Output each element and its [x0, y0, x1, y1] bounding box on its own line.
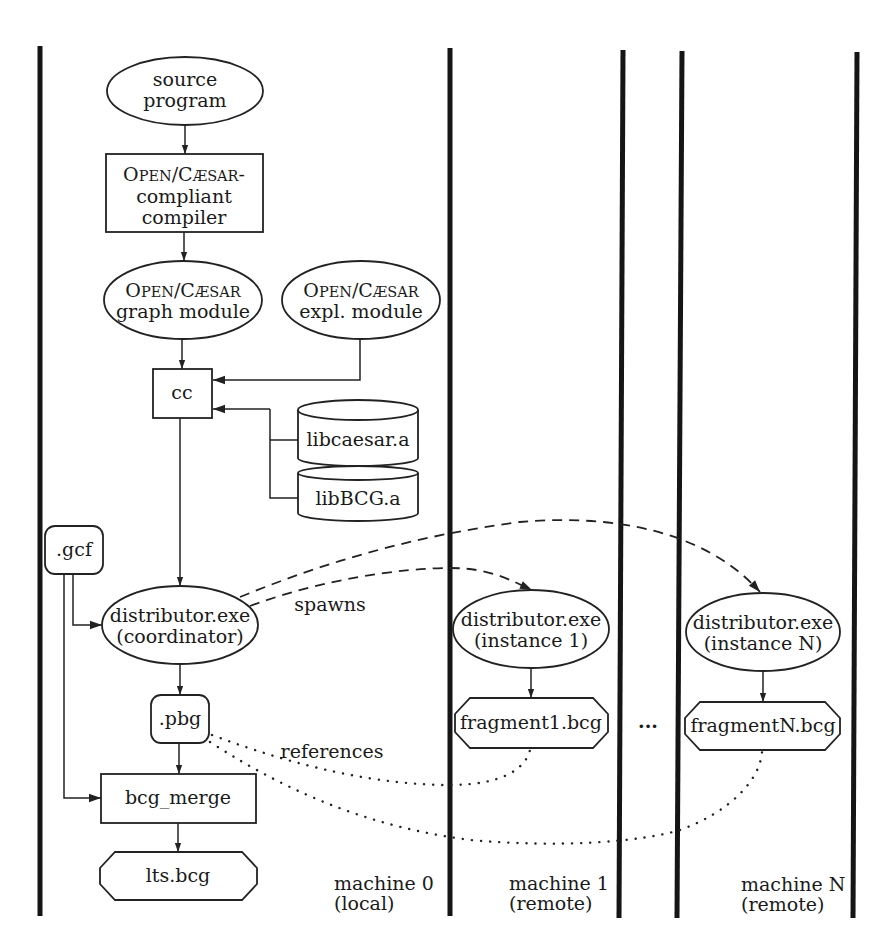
node-pbg: .pbg — [151, 695, 209, 743]
instanceN-line2: (instance N) — [704, 632, 823, 654]
compiler-line2: compliant — [136, 185, 232, 207]
machineN-right-boundary — [853, 52, 857, 918]
node-source-program: source program — [107, 57, 263, 125]
node-gcf: .gcf — [45, 526, 103, 574]
machineN-name: machine N — [741, 873, 845, 895]
node-instanceN: distributor.exe (instance N) — [686, 593, 840, 671]
node-fragmentN: fragmentN.bcg — [685, 702, 840, 750]
source-program-line1: source — [153, 68, 217, 90]
gcf-label: .gcf — [56, 538, 94, 560]
node-graph-module: OPEN/CÆSAR graph module — [104, 261, 262, 339]
node-bcg-merge: bcg_merge — [101, 774, 256, 823]
coordinator-line2: (coordinator) — [116, 625, 243, 647]
fragmentN-label: fragmentN.bcg — [690, 714, 835, 736]
node-expl-module: OPEN/CÆSAR expl. module — [282, 261, 440, 339]
node-fragment1: fragment1.bcg — [455, 698, 608, 748]
machine1-name: machine 1 — [509, 872, 609, 894]
machine0-name: machine 0 — [334, 872, 434, 894]
libbcg-label: libBCG.a — [315, 487, 400, 509]
pbg-label: .pbg — [159, 707, 202, 729]
machineN-left-boundary — [677, 51, 682, 918]
bcg-merge-label: bcg_merge — [125, 786, 231, 809]
cc-label: cc — [171, 381, 192, 403]
edge-expl-module-to-cc — [213, 339, 360, 380]
node-compiler: OPEN/CÆSAR- compliant compiler — [106, 154, 263, 232]
coordinator-line1: distributor.exe — [110, 604, 251, 626]
fragment1-label: fragment1.bcg — [460, 711, 602, 733]
compiler-line3: compiler — [142, 206, 228, 228]
lts-label: lts.bcg — [146, 864, 210, 886]
libcaesar-label: libcaesar.a — [307, 428, 410, 450]
machine1-right-boundary — [619, 50, 623, 918]
ellipsis-label: ... — [638, 710, 658, 732]
node-libcaesar: libcaesar.a — [298, 400, 418, 466]
node-lts: lts.bcg — [100, 852, 257, 900]
machine0-kind: (local) — [334, 892, 394, 914]
instanceN-line1: distributor.exe — [693, 611, 834, 633]
instance1-line2: (instance 1) — [474, 629, 588, 651]
node-instance1: distributor.exe (instance 1) — [453, 590, 609, 668]
edge-gcf-to-coordinator — [73, 574, 102, 625]
machine1-kind: (remote) — [509, 892, 593, 914]
source-program-line2: program — [143, 89, 226, 111]
machineN-kind: (remote) — [741, 893, 825, 915]
edge-gcf-to-bcg-merge — [64, 574, 101, 798]
instance1-line1: distributor.exe — [461, 608, 602, 630]
spawns-label: spawns — [294, 593, 366, 615]
node-coordinator: distributor.exe (coordinator) — [102, 586, 258, 664]
bracket-libs — [270, 440, 298, 498]
node-libbcg: libBCG.a — [298, 466, 418, 521]
references-label: references — [281, 740, 384, 762]
distributed-lts-generation-diagram: source program OPEN/CÆSAR- compliant com… — [0, 0, 886, 946]
node-cc: cc — [153, 369, 212, 418]
expl-module-line2: expl. module — [299, 300, 422, 322]
graph-module-line2: graph module — [116, 300, 250, 322]
